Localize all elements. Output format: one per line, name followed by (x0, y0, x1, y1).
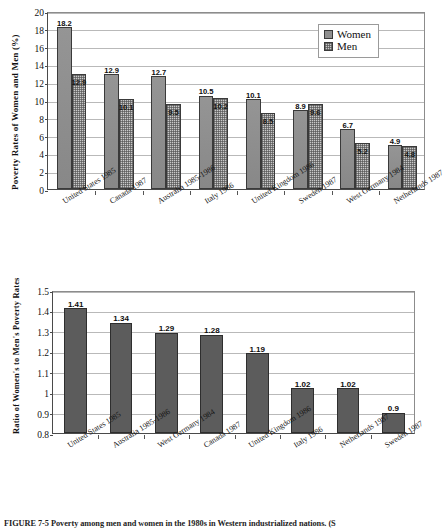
gridline (53, 292, 414, 293)
data-label-women-5: 8.9 (295, 102, 306, 111)
y-tick-mark (50, 414, 53, 415)
y-tick-mark (45, 137, 48, 138)
bar-women-4 (246, 99, 261, 189)
y-tick-mark (45, 119, 48, 120)
data-label-ratio-7: 0.9 (388, 404, 399, 413)
y-tick-label: 1 (44, 389, 49, 399)
chart2-plot-area: 0.80.911.11.21.31.41.51.411.341.291.281.… (52, 291, 415, 434)
figure-caption-text: Poverty among men and women in the 1980s… (51, 519, 336, 528)
data-label-men-0: 12.9 (72, 78, 87, 87)
data-label-ratio-1: 1.34 (113, 314, 129, 323)
x-tick-mark (235, 435, 236, 439)
bar-men-3 (213, 98, 228, 189)
poverty-rates-chart: Poverty Rates of Women and Men (%) 02468… (0, 0, 440, 268)
y-tick-mark (45, 173, 48, 174)
data-label-women-2: 12.7 (151, 68, 166, 77)
data-label-women-0: 18.2 (57, 19, 72, 28)
data-label-women-1: 12.9 (104, 66, 119, 75)
bar-men-0 (72, 74, 87, 189)
y-tick-mark (45, 155, 48, 156)
legend-item-men: Men (324, 41, 371, 52)
y-tick-mark (50, 373, 53, 374)
bar-ratio-4 (246, 353, 269, 433)
y-tick-label: 16 (35, 44, 45, 54)
data-label-men-3: 10.2 (213, 102, 228, 111)
y-tick-label: 10 (35, 97, 45, 107)
data-label-ratio-6: 1.02 (340, 380, 356, 389)
y-tick-label: 12 (35, 79, 45, 89)
data-label-ratio-2: 1.29 (159, 324, 175, 333)
y-tick-mark (45, 84, 48, 85)
legend-label-women: Women (337, 29, 371, 40)
y-tick-label: 1.4 (37, 307, 49, 317)
y-tick-mark (50, 312, 53, 313)
bar-men-1 (119, 99, 134, 189)
bar-women-0 (57, 27, 72, 189)
y-tick-label: 1.5 (37, 287, 49, 297)
data-label-men-1: 10.1 (119, 103, 134, 112)
y-tick-mark (45, 102, 48, 103)
y-tick-label: 8 (39, 115, 44, 125)
data-label-women-3: 10.5 (199, 87, 214, 96)
figure-number: FIGURE 7-5 (4, 519, 49, 528)
data-label-ratio-5: 1.02 (295, 380, 311, 389)
y-tick-label: 6 (39, 133, 44, 143)
y-tick-mark (50, 394, 53, 395)
y-tick-label: 2 (39, 168, 44, 178)
gridline (53, 394, 414, 395)
poverty-ratio-chart: Ratio of Women's to Men's Poverty Rates … (0, 283, 440, 513)
x-tick-mark (98, 435, 99, 439)
x-tick-mark (189, 435, 190, 439)
y-tick-mark (50, 353, 53, 354)
y-tick-label: 1.2 (37, 348, 49, 358)
gridline (53, 312, 414, 313)
y-tick-label: 14 (35, 61, 45, 71)
data-label-women-7: 4.9 (390, 137, 401, 146)
chart2-y-axis-title: Ratio of Women's to Men's Poverty Rates (12, 277, 21, 434)
legend-label-men: Men (337, 41, 357, 52)
y-tick-label: 0.9 (37, 410, 49, 420)
y-tick-label: 0 (39, 186, 44, 196)
y-tick-mark (45, 48, 48, 49)
y-tick-label: 20 (35, 8, 45, 18)
x-tick-mark (95, 191, 96, 195)
y-tick-label: 18 (35, 26, 45, 36)
data-label-men-5: 9.6 (310, 108, 321, 117)
x-tick-mark (144, 435, 145, 439)
bar-ratio-0 (64, 308, 87, 433)
data-label-men-6: 5.2 (357, 147, 368, 156)
data-label-women-6: 6.7 (343, 121, 354, 130)
chart1-legend: Women Men (318, 24, 379, 58)
legend-item-women: Women (324, 29, 371, 40)
gridline (48, 13, 424, 14)
y-tick-mark (45, 66, 48, 67)
data-label-ratio-0: 1.41 (68, 300, 84, 309)
chart1-y-axis-title: Poverty Rates of Women and Men (%) (10, 34, 20, 190)
x-tick-mark (190, 191, 191, 195)
bar-women-2 (151, 76, 166, 189)
gridline (53, 332, 414, 333)
x-tick-mark (237, 191, 238, 195)
y-tick-label: 1.3 (37, 328, 49, 338)
y-tick-mark (50, 332, 53, 333)
data-label-men-2: 9.5 (168, 108, 179, 117)
x-tick-mark (284, 191, 285, 195)
x-tick-mark (143, 191, 144, 195)
x-tick-mark (280, 435, 281, 439)
y-tick-label: 1.1 (37, 369, 49, 379)
y-tick-label: 4 (39, 150, 44, 160)
y-tick-mark (50, 292, 53, 293)
legend-swatch-women-icon (324, 30, 333, 39)
gridline (53, 353, 414, 354)
x-tick-mark (371, 435, 372, 439)
legend-swatch-men-icon (324, 42, 333, 51)
data-label-men-7: 4.8 (404, 150, 415, 159)
y-tick-mark (45, 191, 48, 192)
y-tick-mark (45, 30, 48, 31)
data-label-women-4: 10.1 (246, 91, 261, 100)
data-label-ratio-3: 1.28 (204, 326, 220, 335)
bar-women-6 (340, 129, 355, 189)
y-tick-mark (45, 13, 48, 14)
bar-ratio-6 (337, 388, 360, 433)
data-label-ratio-4: 1.19 (249, 345, 265, 354)
